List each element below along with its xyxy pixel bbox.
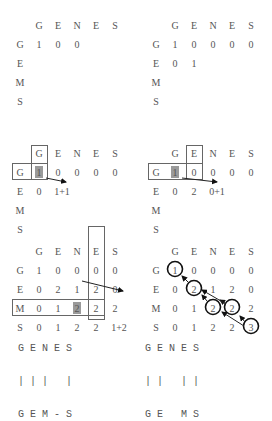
alignment-2-bars: | | | | bbox=[145, 376, 199, 387]
alignment-2: G E N E S | | | | G E M S bbox=[145, 321, 199, 421]
alignment-1-bars: | | | | bbox=[18, 376, 72, 387]
alignment-2-top: G E N E S bbox=[145, 343, 199, 354]
traceback-circle-icon bbox=[225, 300, 240, 315]
traceback-circle-icon bbox=[187, 281, 202, 296]
alignment-1-bottom: G E M - S bbox=[18, 409, 72, 420]
alignment-2-bottom: G E M S bbox=[145, 409, 199, 420]
traceback-arrow-icon bbox=[202, 295, 207, 301]
diagonal-arrow-icon bbox=[46, 178, 66, 182]
alignment-1: G E N E S | | | | G E M - S bbox=[18, 321, 72, 421]
traceback-arrow-icon bbox=[240, 316, 245, 322]
traceback-circle-icon bbox=[206, 300, 221, 315]
alignment-1-top: G E N E S bbox=[18, 343, 72, 354]
traceback-arrow-icon bbox=[202, 290, 226, 304]
diagonal-arrow-icon bbox=[82, 281, 123, 291]
diagonal-arrow-icon bbox=[182, 178, 217, 182]
traceback-arrow-icon bbox=[182, 276, 188, 282]
traceback-circle-icon bbox=[244, 319, 259, 334]
traceback-circle-icon bbox=[168, 262, 183, 277]
